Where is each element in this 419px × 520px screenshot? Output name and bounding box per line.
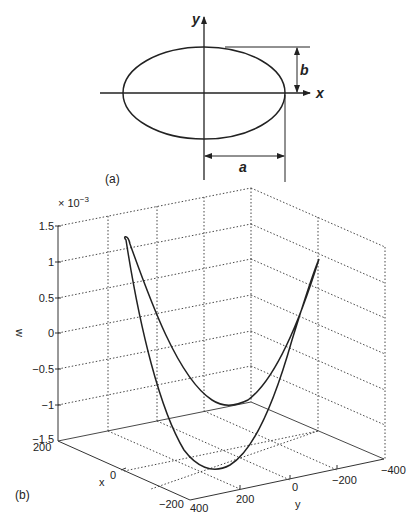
scale-factor: × 10−3	[58, 195, 89, 209]
w-tick: −1	[41, 399, 54, 411]
y-tick: 400	[190, 502, 208, 514]
panel-a-label: (a)	[105, 172, 120, 186]
w-tick-labels: 1.5 1 0.5 0 −0.5 −1 −1.5	[32, 220, 54, 445]
w-tick: 0	[48, 327, 54, 339]
y-tick: 200	[236, 493, 254, 505]
back-right-bottom-edge	[251, 402, 384, 459]
figure: b a x y (a)	[0, 0, 419, 520]
w-axis-label: w	[14, 328, 26, 337]
y-tick: −400	[381, 464, 406, 476]
scale-prefix: × 10	[58, 197, 80, 209]
w-tick: −0.5	[32, 363, 54, 375]
scale-exponent: −3	[80, 195, 90, 204]
panel-b-3d-plot: 1.5 1 0.5 0 −0.5 −1 −1.5 w × 10−3 200 0 …	[14, 188, 406, 514]
x-axis-line	[58, 441, 190, 500]
back-bottom-edge	[58, 402, 251, 441]
panel-b-label: (b)	[15, 488, 30, 502]
x-axis-label: x	[315, 85, 325, 101]
y-tick: 0	[292, 481, 298, 493]
b-label: b	[300, 62, 309, 78]
w-tick: 1	[48, 256, 54, 268]
x-axis-label: x	[99, 476, 105, 488]
y-tick-marks	[240, 465, 337, 489]
x-tick-labels: 200 0 −200	[33, 441, 184, 510]
y-axis-label: y	[295, 498, 301, 510]
x-tick: −200	[159, 498, 184, 510]
floor-grid	[108, 411, 337, 489]
y-axis-label: y	[191, 11, 201, 27]
x-tick: 0	[110, 469, 116, 481]
panel-a-ellipse-diagram: b a x y (a)	[100, 11, 325, 186]
w-tick: 1.5	[39, 220, 54, 232]
w-tick: 0.5	[39, 292, 54, 304]
a-label: a	[239, 159, 247, 175]
back-right-wall-grid	[251, 188, 385, 459]
y-tick: −200	[332, 474, 357, 486]
x-tick: 200	[33, 441, 51, 453]
deflection-curve	[125, 237, 319, 469]
